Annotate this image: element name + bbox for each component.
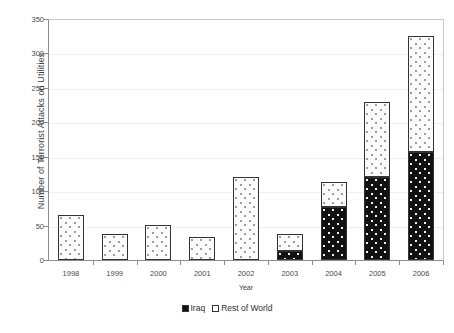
bar-group xyxy=(233,177,259,260)
x-tick-label: 2006 xyxy=(398,269,444,278)
x-tick-label: 1998 xyxy=(48,269,94,278)
bar-segment-rest-of-world xyxy=(102,234,128,260)
bar-segment-rest-of-world xyxy=(321,182,347,207)
bar-segment-iraq xyxy=(408,152,434,260)
legend-swatch-iraq xyxy=(182,305,189,312)
bar-group xyxy=(277,234,303,260)
bar-segment-rest-of-world xyxy=(58,215,84,260)
x-tick-mark xyxy=(268,261,269,265)
chart-legend: Iraq Rest of World xyxy=(0,303,454,313)
bar-chart: Number of Terrorist Attacks on Utilities… xyxy=(0,0,454,333)
x-tick-label: 2005 xyxy=(354,269,400,278)
bar-group xyxy=(364,102,390,260)
x-tick-label: 2002 xyxy=(223,269,269,278)
x-tick-label: 2004 xyxy=(311,269,357,278)
x-axis-ticks: 199819992000200120022003200420052006 xyxy=(49,261,443,269)
legend-label-rest-of-world: Rest of World xyxy=(221,303,272,313)
y-tick-label: 0 xyxy=(18,256,44,265)
bar-segment-rest-of-world xyxy=(189,237,215,260)
x-tick-label: 2001 xyxy=(179,269,225,278)
bar-series-container xyxy=(49,19,443,260)
x-tick-mark xyxy=(137,261,138,265)
y-tick-label: 300 xyxy=(18,49,44,58)
x-tick-mark xyxy=(312,261,313,265)
x-tick-mark xyxy=(93,261,94,265)
y-tick-label: 50 xyxy=(18,221,44,230)
bar-segment-rest-of-world xyxy=(408,36,434,152)
bar-segment-rest-of-world xyxy=(364,102,390,178)
bar-segment-rest-of-world xyxy=(233,177,259,260)
y-tick-label: 250 xyxy=(18,83,44,92)
legend-swatch-rest-of-world xyxy=(212,305,219,312)
x-tick-mark xyxy=(399,261,400,265)
y-tick-label: 100 xyxy=(18,187,44,196)
x-tick-label: 2000 xyxy=(135,269,181,278)
y-tick-label: 350 xyxy=(18,15,44,24)
legend-label-iraq: Iraq xyxy=(191,303,206,313)
x-tick-mark xyxy=(180,261,181,265)
legend-item-iraq: Iraq xyxy=(182,303,206,313)
bar-group xyxy=(102,234,128,260)
x-axis-title: Year xyxy=(48,284,444,291)
bar-segment-iraq xyxy=(364,177,390,260)
bar-segment-iraq xyxy=(321,207,347,260)
bar-group xyxy=(189,237,215,260)
y-axis-ticks: 050100150200250300350 xyxy=(0,19,44,261)
bar-group xyxy=(321,182,347,260)
x-tick-mark xyxy=(355,261,356,265)
legend-item-rest-of-world: Rest of World xyxy=(212,303,272,313)
x-tick-label: 2003 xyxy=(267,269,313,278)
y-tick-label: 150 xyxy=(18,152,44,161)
bar-segment-rest-of-world xyxy=(145,225,171,260)
bar-group xyxy=(58,215,84,260)
x-tick-mark xyxy=(224,261,225,265)
x-tick-mark xyxy=(443,261,444,265)
x-tick-label: 1999 xyxy=(92,269,138,278)
bar-segment-rest-of-world xyxy=(277,234,303,251)
bar-group xyxy=(408,36,434,260)
bar-segment-iraq xyxy=(277,251,303,260)
y-tick-label: 200 xyxy=(18,118,44,127)
bar-group xyxy=(145,225,171,260)
